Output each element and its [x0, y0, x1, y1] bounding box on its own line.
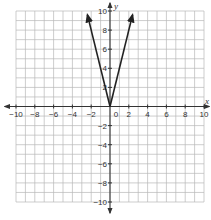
x-tick-label: 0 [114, 110, 119, 119]
x-tick-label: −6 [49, 110, 59, 119]
y-tick-label: 4 [103, 64, 108, 73]
y-tick-label: −6 [98, 160, 108, 169]
x-tick-label: −4 [68, 110, 78, 119]
x-tick-label: 4 [145, 110, 150, 119]
y-tick-label: 10 [98, 7, 107, 16]
x-tick-label: −2 [87, 110, 97, 119]
x-axis-label: x [204, 96, 209, 106]
y-tick-label: 6 [103, 45, 108, 54]
x-tick-label: 10 [200, 110, 209, 119]
x-tick-label: 6 [164, 110, 169, 119]
axes [5, 3, 209, 213]
y-tick-label: −2 [98, 122, 108, 131]
coordinate-plane: −10−8−6−4−20246810−10−8−6−4−2246810 x y [0, 0, 211, 220]
y-tick-label: −4 [98, 141, 108, 150]
x-tick-label: −10 [9, 110, 23, 119]
y-tick-label: −8 [98, 179, 108, 188]
y-tick-label: −10 [93, 198, 107, 207]
x-tick-label: 8 [183, 110, 188, 119]
graph-right-branch [110, 15, 133, 107]
y-tick-label: 8 [103, 26, 108, 35]
x-tick-label: 2 [127, 110, 132, 119]
y-axis-label: y [113, 1, 118, 11]
x-tick-label: −8 [30, 110, 40, 119]
